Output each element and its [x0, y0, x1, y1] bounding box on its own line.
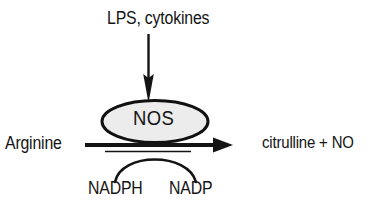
cofactor-out-label: NADP — [169, 178, 212, 199]
nos-reaction-diagram: LPS, cytokines NOS Arginine citrulline +… — [0, 0, 377, 211]
cofactor-in-label: NADPH — [88, 178, 143, 199]
stimulus-arrow — [143, 34, 154, 103]
product-label: citrulline + NO — [262, 133, 354, 153]
substrate-label: Arginine — [5, 133, 62, 154]
enzyme-label: NOS — [133, 106, 174, 130]
stimulus-label: LPS, cytokines — [107, 8, 209, 29]
stimulus-arrow-head — [143, 74, 154, 103]
reaction-arrow-head — [213, 138, 233, 153]
